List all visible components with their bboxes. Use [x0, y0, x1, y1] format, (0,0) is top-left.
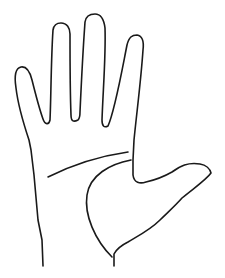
hand-outline [15, 14, 211, 266]
hand-drawing [0, 0, 225, 278]
hand-illustration [0, 0, 225, 278]
life-line [87, 160, 131, 257]
